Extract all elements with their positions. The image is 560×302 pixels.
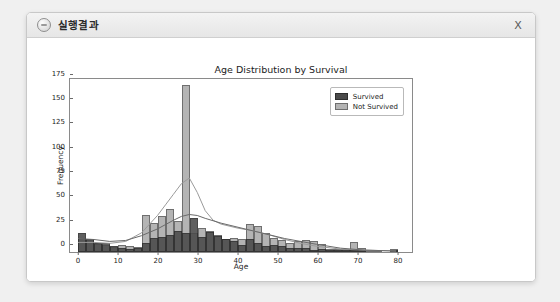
legend-swatch-survived (335, 93, 348, 100)
chart-legend: Survived Not Survived (330, 87, 404, 116)
y-tick-label: 100 (52, 143, 70, 151)
plot-area: Survived Not Survived 025507510012515017… (69, 78, 413, 253)
legend-label-survived: Survived (353, 93, 384, 101)
y-tick-label: 0 (61, 240, 70, 248)
window-titlebar[interactable]: 실행결과 X (27, 13, 535, 38)
chart-figure: Age Distribution by Survival Frequency S… (27, 38, 535, 281)
kde-curve (78, 215, 396, 252)
x-axis-label: Age (69, 262, 413, 271)
y-tick-label: 50 (56, 191, 70, 199)
y-tick-label: 175 (52, 70, 70, 78)
legend-label-not-survived: Not Survived (353, 103, 398, 111)
dialog-content: Age Distribution by Survival Frequency S… (27, 38, 535, 281)
screen-root: 실행결과 X Age Distribution by Survival Freq… (0, 0, 560, 302)
chart-title: Age Distribution by Survival (27, 64, 535, 75)
y-axis-label-text: Frequency (56, 146, 65, 185)
legend-item-survived: Survived (335, 92, 398, 101)
result-dialog-window: 실행결과 X Age Distribution by Survival Freq… (26, 12, 536, 282)
app-circle-icon (37, 18, 51, 32)
legend-swatch-not-survived (335, 103, 348, 110)
y-tick-label: 150 (52, 94, 70, 102)
close-icon[interactable]: X (511, 18, 525, 32)
y-tick-label: 125 (52, 118, 70, 126)
window-title: 실행결과 (58, 20, 99, 31)
y-tick-label: 25 (56, 216, 70, 224)
y-tick-label: 75 (56, 167, 70, 175)
legend-item-not-survived: Not Survived (335, 102, 398, 111)
